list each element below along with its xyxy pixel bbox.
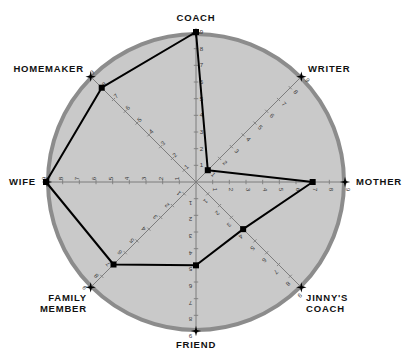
- axis-label-jinny-s-line2: COACH: [306, 303, 345, 314]
- axis-label-friend: FRIEND: [176, 339, 216, 350]
- axis-tick-label: 8: [200, 45, 204, 52]
- axis-tick-label: 5: [107, 176, 114, 180]
- data-point-marker: [193, 262, 199, 268]
- axis-tick-label: 9: [200, 28, 204, 35]
- axis-tick-label: 5: [278, 188, 285, 192]
- axis-tick-label: 7: [312, 188, 319, 192]
- axis-tick-label: 8: [328, 188, 335, 192]
- axis-tick-label: 4: [188, 250, 192, 257]
- axis-tick-label: 1: [212, 188, 219, 192]
- axis-tick-label: 3: [140, 176, 147, 180]
- axis-label-homemaker: HOMEMAKER: [13, 63, 84, 74]
- axis-tick-label: 6: [188, 283, 192, 290]
- axis-label-family: FAMILY: [48, 292, 87, 303]
- axis-tick-label: 6: [90, 176, 97, 180]
- axis-tick-label: 9: [345, 188, 352, 192]
- axis-tick-label: 2: [200, 145, 204, 152]
- axis-label-wife: WIFE: [9, 176, 36, 187]
- data-point-marker: [43, 179, 49, 185]
- axis-tick-label: 1: [200, 161, 204, 168]
- axis-tick-label: 7: [188, 300, 192, 307]
- data-point-marker: [205, 167, 211, 173]
- data-point-marker: [193, 29, 199, 35]
- radar-chart-svg: 1234567891234567891234567891234567891234…: [0, 0, 404, 364]
- axis-tick-label: 9: [296, 292, 304, 300]
- axis-label-mother: MOTHER: [356, 176, 402, 187]
- axis-tick-label: 2: [157, 176, 164, 180]
- axis-tick-label: 4: [262, 188, 269, 192]
- data-point-marker: [99, 85, 105, 91]
- axis-tick-label: 2: [228, 188, 235, 192]
- axis-tick-label: 1: [173, 176, 180, 180]
- axis-label-jinny-s: JINNY'S: [306, 292, 348, 303]
- axis-tick-label: 8: [188, 316, 192, 323]
- axis-tick-label: 3: [245, 188, 252, 192]
- axis-tick-label: 2: [188, 216, 192, 223]
- data-point-marker: [310, 179, 316, 185]
- axis-tick-label: 3: [200, 128, 204, 135]
- axis-tick-label: 3: [188, 233, 192, 240]
- data-point-marker: [111, 261, 117, 267]
- radar-chart-container: 1234567891234567891234567891234567891234…: [0, 0, 404, 364]
- axis-tick-label: 8: [57, 176, 64, 180]
- axis-tick-label: 1: [188, 200, 192, 207]
- axis-label-writer: WRITER: [308, 63, 350, 74]
- axis-tick-label: 4: [123, 176, 130, 180]
- axis-tick-label: 5: [188, 266, 192, 273]
- axis-label-family-line2: MEMBER: [40, 303, 87, 314]
- axis-tick-label: 7: [73, 176, 80, 180]
- axis-tick-label: 9: [80, 284, 88, 292]
- data-point-marker: [240, 226, 246, 232]
- axis-label-coach: COACH: [177, 12, 216, 23]
- axis-tick-label: 7: [200, 61, 204, 68]
